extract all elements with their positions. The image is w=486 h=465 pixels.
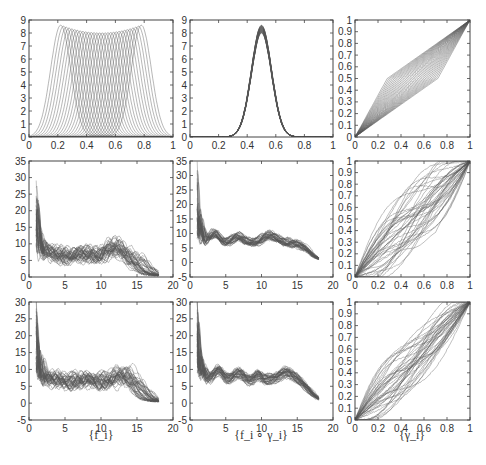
x-tick-label: 0.4: [394, 280, 408, 291]
x-tick-label: 0: [187, 140, 193, 151]
y-tick-label: 0: [181, 398, 187, 409]
y-tick-label: 5: [20, 67, 26, 78]
y-tick-label: 6: [181, 54, 187, 65]
y-tick-label: 0.7: [338, 190, 352, 201]
y-tick-label: 10: [15, 364, 27, 375]
x-tick-label: 0.2: [212, 140, 226, 151]
y-tick-label: 0.2: [338, 108, 352, 119]
x-tick-label: 0: [26, 140, 32, 151]
chart-r2c1: 0510152005101520253035: [15, 156, 179, 292]
x-tick-label: 0.8: [297, 140, 311, 151]
y-tick-label: -5: [178, 415, 187, 426]
chart-r1c3: 00.20.40.60.8100.10.20.30.40.50.60.70.80…: [338, 15, 473, 152]
y-tick-label: 0: [20, 132, 26, 143]
x-tick-label: 15: [292, 280, 304, 291]
y-tick-label: -5: [178, 272, 187, 283]
y-tick-label: 5: [181, 67, 187, 78]
xlabel-gamma: {γ_i}: [352, 428, 472, 443]
y-tick-label: 25: [15, 189, 27, 200]
x-tick-label: 0.2: [371, 140, 385, 151]
y-tick-label: 1: [346, 15, 352, 26]
y-tick-label: 15: [15, 347, 27, 358]
x-tick-label: 0.6: [417, 140, 431, 151]
figure-grid: 00.20.40.60.81012345678900.20.40.60.8101…: [0, 0, 486, 465]
y-tick-label: 0.9: [338, 26, 352, 37]
y-tick-label: 5: [20, 255, 26, 266]
y-tick-label: 7: [181, 41, 187, 52]
x-tick-label: 5: [223, 280, 229, 291]
series-group: [355, 20, 470, 137]
y-tick-label: 5: [181, 381, 187, 392]
x-tick-label: 0.6: [417, 280, 431, 291]
y-tick-label: 0: [181, 132, 187, 143]
y-tick-label: 9: [181, 15, 187, 26]
x-tick-label: 0.8: [137, 140, 151, 151]
x-tick-label: 0.6: [269, 140, 283, 151]
y-tick-label: 0.5: [338, 356, 352, 367]
axes-box: [190, 302, 333, 420]
series-group: [355, 161, 470, 277]
y-tick-label: 0.4: [338, 367, 352, 378]
x-tick-label: 5: [62, 280, 68, 291]
x-tick-label: 0.4: [240, 140, 254, 151]
y-tick-label: 20: [176, 199, 188, 210]
y-tick-label: 2: [181, 106, 187, 117]
y-tick-label: 0.4: [338, 225, 352, 236]
axes-box: [190, 20, 333, 137]
xlabel-f-composed-gamma: {f_i ∘ γ_i}: [201, 428, 321, 443]
y-tick-label: 0.1: [338, 120, 352, 131]
x-tick-label: 0.8: [440, 280, 454, 291]
y-tick-label: 1: [181, 119, 187, 130]
y-tick-label: -5: [17, 415, 26, 426]
y-tick-label: 0.6: [338, 202, 352, 213]
series-group: [355, 302, 470, 420]
x-tick-label: 0: [26, 280, 32, 291]
x-tick-label: 1: [467, 280, 473, 291]
y-tick-label: 0.8: [338, 179, 352, 190]
y-tick-label: 0.6: [338, 61, 352, 72]
x-tick-label: 1: [170, 140, 176, 151]
y-tick-label: 0.1: [338, 260, 352, 271]
y-tick-label: 30: [15, 172, 27, 183]
y-tick-label: 0.9: [338, 167, 352, 178]
y-tick-label: 4: [20, 80, 26, 91]
y-tick-label: 0.5: [338, 214, 352, 225]
y-tick-label: 0: [181, 257, 187, 268]
x-tick-label: 1: [330, 140, 336, 151]
axes-box: [190, 161, 333, 277]
y-tick-label: 0.3: [338, 237, 352, 248]
series-group: [197, 298, 319, 400]
x-tick-label: 15: [131, 280, 143, 291]
y-tick-label: 0.3: [338, 96, 352, 107]
y-tick-label: 20: [15, 205, 27, 216]
y-tick-label: 10: [15, 238, 27, 249]
y-tick-label: 15: [176, 347, 188, 358]
y-tick-label: 0.1: [338, 403, 352, 414]
x-tick-label: 0.6: [108, 140, 122, 151]
y-tick-label: 30: [176, 170, 188, 181]
axes-box: [29, 302, 173, 420]
y-tick-label: 25: [176, 185, 188, 196]
y-tick-label: 0.9: [338, 308, 352, 319]
y-tick-label: 0: [20, 398, 26, 409]
x-tick-label: 20: [327, 423, 339, 434]
y-tick-label: 9: [20, 15, 26, 26]
y-tick-label: 5: [181, 243, 187, 254]
x-tick-label: 0.2: [51, 140, 65, 151]
y-tick-label: 3: [181, 93, 187, 104]
x-tick-label: 0: [26, 423, 32, 434]
y-tick-label: 0.7: [338, 332, 352, 343]
y-tick-label: 0.8: [338, 38, 352, 49]
y-tick-label: 0.4: [338, 85, 352, 96]
x-tick-label: 0: [187, 280, 193, 291]
chart-r1c1: 00.20.40.60.810123456789: [20, 15, 176, 152]
y-tick-label: 1: [346, 156, 352, 167]
y-tick-label: 15: [15, 222, 27, 233]
y-tick-label: 8: [20, 28, 26, 39]
y-tick-label: 2: [20, 106, 26, 117]
y-tick-label: 8: [181, 28, 187, 39]
xlabel-f: {f_i}: [41, 428, 161, 443]
y-tick-label: 20: [15, 330, 27, 341]
y-tick-label: 7: [20, 41, 26, 52]
y-tick-label: 0.5: [338, 73, 352, 84]
